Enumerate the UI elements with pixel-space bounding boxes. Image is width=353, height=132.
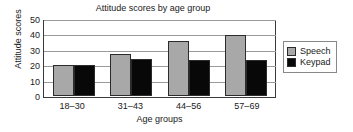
bar-group xyxy=(45,20,103,96)
y-tick-label: 30 xyxy=(18,47,40,56)
legend-swatch-icon xyxy=(287,47,296,56)
y-tick-label: 20 xyxy=(18,62,40,71)
bar-speech xyxy=(168,41,189,96)
y-tick-label: 10 xyxy=(18,78,40,87)
legend-item-keypad: Keypad xyxy=(287,58,331,67)
bar-keypad xyxy=(189,60,210,96)
bar-keypad xyxy=(74,65,95,96)
bar-speech xyxy=(110,54,131,96)
x-axis-ticks: 18–30 31–43 44–56 57–69 xyxy=(43,101,276,111)
bar-groups xyxy=(45,20,275,96)
plot-area xyxy=(43,20,276,98)
legend-item-speech: Speech xyxy=(287,47,331,56)
bar-keypad xyxy=(246,60,267,96)
bar-group xyxy=(103,20,161,96)
bar-group xyxy=(160,20,218,96)
x-tick-label: 31–43 xyxy=(101,101,159,111)
y-tick-label: 50 xyxy=(18,16,40,25)
bar-speech xyxy=(225,35,246,96)
bar-keypad xyxy=(131,59,152,96)
chart-title: Attitude scores by age group xyxy=(28,3,278,14)
bar-speech xyxy=(53,65,74,96)
x-axis-label: Age groups xyxy=(43,114,276,124)
bar-chart: Attitude scores by age group Attitude sc… xyxy=(0,0,353,132)
legend-label: Speech xyxy=(300,47,331,56)
chart-legend: Speech Keypad xyxy=(283,41,337,73)
legend-label: Keypad xyxy=(300,58,331,67)
legend-swatch-icon xyxy=(287,58,296,67)
y-tick-label: 0 xyxy=(18,93,40,102)
y-axis-ticks: 50 40 30 20 10 0 xyxy=(18,16,40,102)
bar-group xyxy=(218,20,276,96)
x-tick-label: 18–30 xyxy=(43,101,101,111)
plot-right-border xyxy=(275,20,276,97)
y-tick-label: 40 xyxy=(18,31,40,40)
x-tick-label: 57–69 xyxy=(218,101,276,111)
x-tick-label: 44–56 xyxy=(160,101,218,111)
